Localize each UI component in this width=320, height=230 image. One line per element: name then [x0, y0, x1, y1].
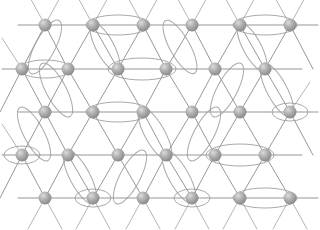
lattice-node — [284, 106, 297, 119]
lattice-node — [87, 192, 100, 205]
lattice-node — [160, 63, 173, 76]
lattice-node — [186, 192, 199, 205]
lattice-node — [259, 63, 272, 76]
lattice-node — [234, 19, 247, 32]
lattice-node — [209, 149, 222, 162]
lattice-node — [87, 106, 100, 119]
lattice-node — [87, 19, 100, 32]
lattice-node — [137, 192, 150, 205]
lattice-node — [284, 19, 297, 32]
lattice-figure — [0, 0, 320, 230]
lattice-node — [112, 63, 125, 76]
lattice-node — [160, 149, 173, 162]
lattice-node — [16, 63, 29, 76]
lattice-node — [259, 149, 272, 162]
lattice-node — [137, 19, 150, 32]
lattice-node — [62, 149, 75, 162]
lattice-node — [39, 192, 52, 205]
lattice-node — [137, 106, 150, 119]
lattice-canvas — [0, 0, 320, 230]
lattice-node — [39, 106, 52, 119]
lattice-node — [234, 192, 247, 205]
lattice-node — [209, 63, 222, 76]
lattice-node — [62, 63, 75, 76]
lattice-node — [284, 192, 297, 205]
lattice-node — [112, 149, 125, 162]
lattice-node — [39, 19, 52, 32]
lattice-node — [186, 106, 199, 119]
lattice-node — [234, 106, 247, 119]
lattice-node — [186, 19, 199, 32]
lattice-node — [16, 149, 29, 162]
